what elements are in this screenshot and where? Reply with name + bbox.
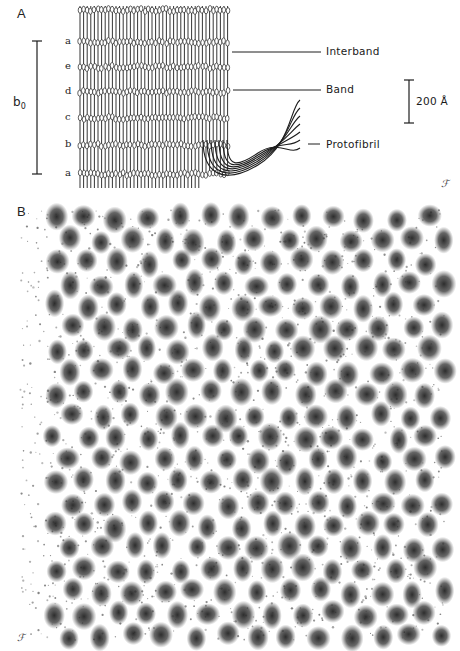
panel-b-lattice <box>0 0 460 651</box>
fibril-cross-sections <box>43 202 457 651</box>
panel-b-signature: ℱ <box>17 632 25 643</box>
